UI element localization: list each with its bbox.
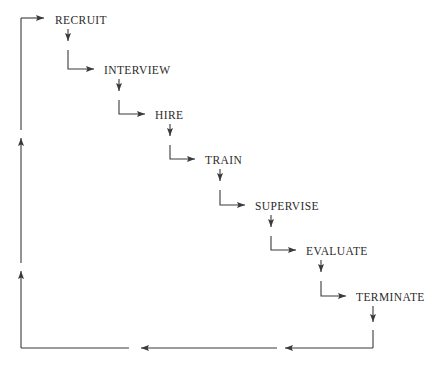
node-label-evaluate[interactable]: EVALUATE xyxy=(306,245,368,257)
node-label-terminate[interactable]: TERMINATE xyxy=(356,291,425,303)
connector-train-to-supervise xyxy=(220,190,245,205)
flowchart-diagram: RECRUIT INTERVIEW HIRE TRAIN SUPERVISE E… xyxy=(0,0,444,366)
connector-evaluate-to-terminate xyxy=(321,281,346,296)
node-label-train[interactable]: TRAIN xyxy=(205,154,242,166)
connector-supervise-to-evaluate xyxy=(271,236,296,250)
node-label-interview[interactable]: INTERVIEW xyxy=(104,64,171,76)
node-label-hire[interactable]: HIRE xyxy=(155,109,183,121)
node-label-supervise[interactable]: SUPERVISE xyxy=(255,200,319,212)
flowchart-connectors xyxy=(0,0,444,366)
connector-interview-to-hire xyxy=(119,100,145,114)
connector-recruit-to-interview xyxy=(68,50,94,69)
node-label-recruit[interactable]: RECRUIT xyxy=(55,14,107,26)
connector-hire-to-train xyxy=(170,145,195,159)
